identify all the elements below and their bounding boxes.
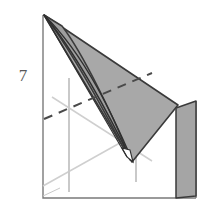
figure-container: 7: [0, 0, 218, 212]
figure-number-label: 7: [10, 66, 36, 86]
construction-corner-tick: [43, 188, 60, 196]
vertical-wall-panel: [176, 101, 196, 198]
figure-illustration: [0, 0, 218, 212]
shaded-cone-solid: [44, 15, 178, 162]
wall-face: [176, 101, 196, 198]
